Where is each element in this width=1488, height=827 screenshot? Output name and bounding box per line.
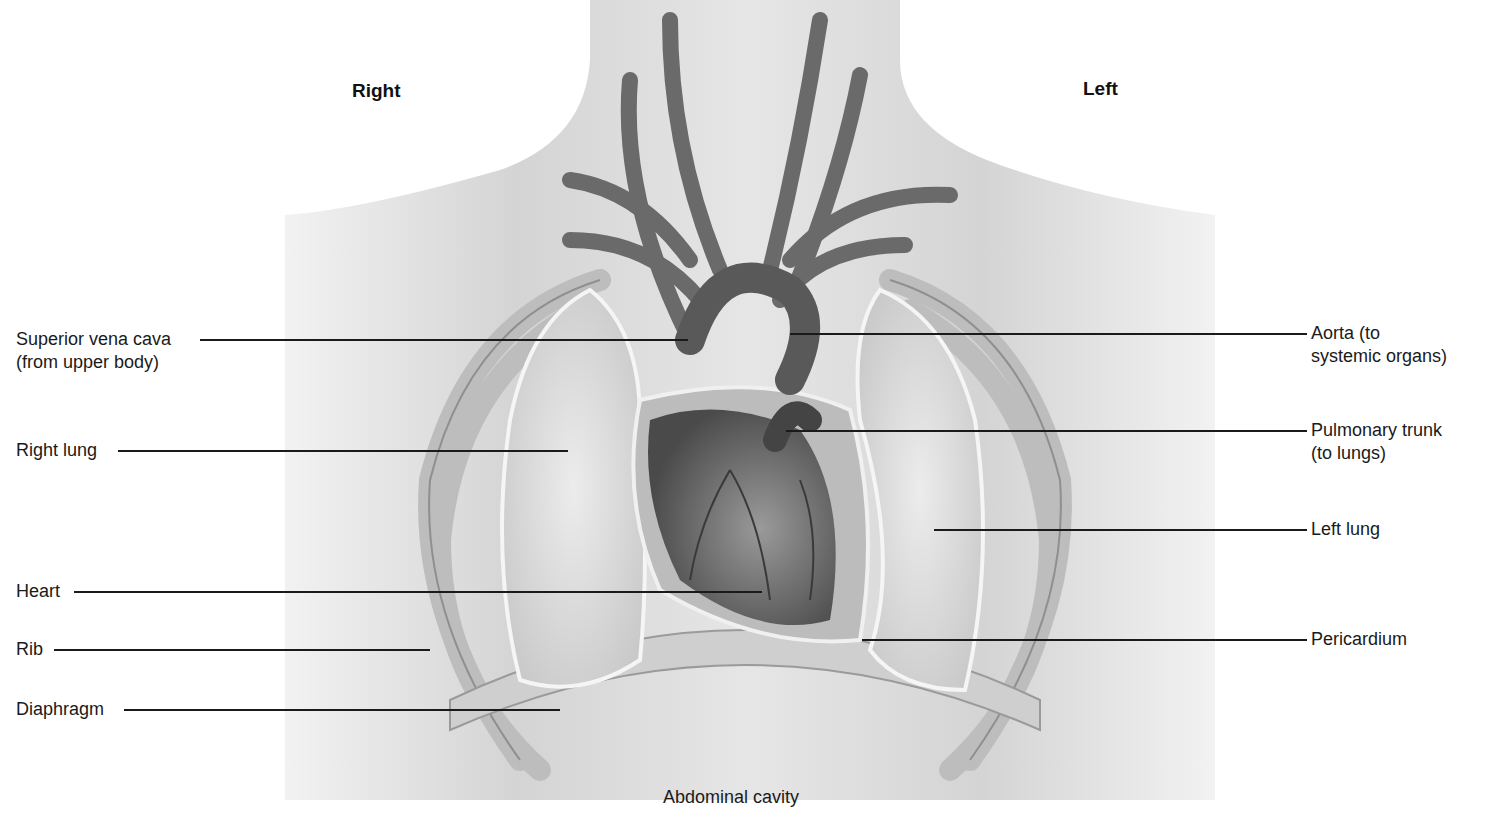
label-superior-vena-cava: Superior vena cava (from upper body): [16, 328, 171, 374]
leader-diaphragm: [124, 709, 560, 711]
leader-superior-vena-cava: [200, 339, 688, 341]
orientation-left-label: Left: [1083, 78, 1118, 100]
leader-right-lung: [118, 450, 568, 452]
thoracic-illustration: [0, 0, 1488, 827]
label-diaphragm: Diaphragm: [16, 698, 104, 721]
label-pericardium: Pericardium: [1311, 628, 1407, 651]
orientation-right-label: Right: [352, 80, 401, 102]
leader-pulmonary-trunk: [786, 430, 1307, 432]
label-aorta: Aorta (to systemic organs): [1311, 322, 1447, 368]
label-rib: Rib: [16, 638, 43, 661]
leader-heart: [74, 591, 762, 593]
label-heart: Heart: [16, 580, 60, 603]
leader-pericardium: [862, 639, 1307, 641]
leader-left-lung: [934, 529, 1307, 531]
label-right-lung: Right lung: [16, 439, 97, 462]
label-left-lung: Left lung: [1311, 518, 1380, 541]
leader-aorta: [790, 333, 1307, 335]
label-pulmonary-trunk: Pulmonary trunk (to lungs): [1311, 419, 1442, 465]
label-abdominal-cavity: Abdominal cavity: [663, 787, 799, 808]
leader-rib: [54, 649, 430, 651]
